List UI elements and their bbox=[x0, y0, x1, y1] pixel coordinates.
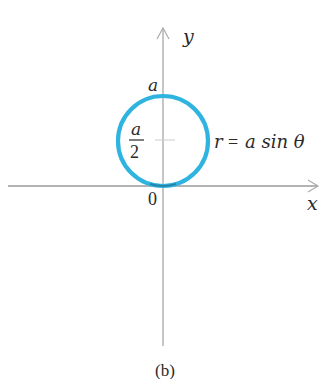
top-label-a: a bbox=[148, 75, 158, 95]
x-axis-label: x bbox=[307, 192, 318, 214]
fraction-denominator: 2 bbox=[130, 142, 139, 162]
origin-label: 0 bbox=[148, 189, 157, 209]
fraction-numerator: a bbox=[131, 119, 141, 139]
figure-caption: (b) bbox=[155, 361, 175, 379]
equation-equals: = bbox=[228, 132, 238, 152]
y-axis-label: y bbox=[182, 25, 194, 47]
polar-diagram: y x 0 a a 2 r = a sin θ (b) bbox=[0, 0, 324, 379]
equation-lhs: r bbox=[214, 131, 224, 152]
equation-label: r = a sin θ bbox=[214, 131, 305, 152]
half-a-fraction: a 2 bbox=[129, 119, 144, 162]
equation-rhs: a sin θ bbox=[245, 131, 305, 152]
